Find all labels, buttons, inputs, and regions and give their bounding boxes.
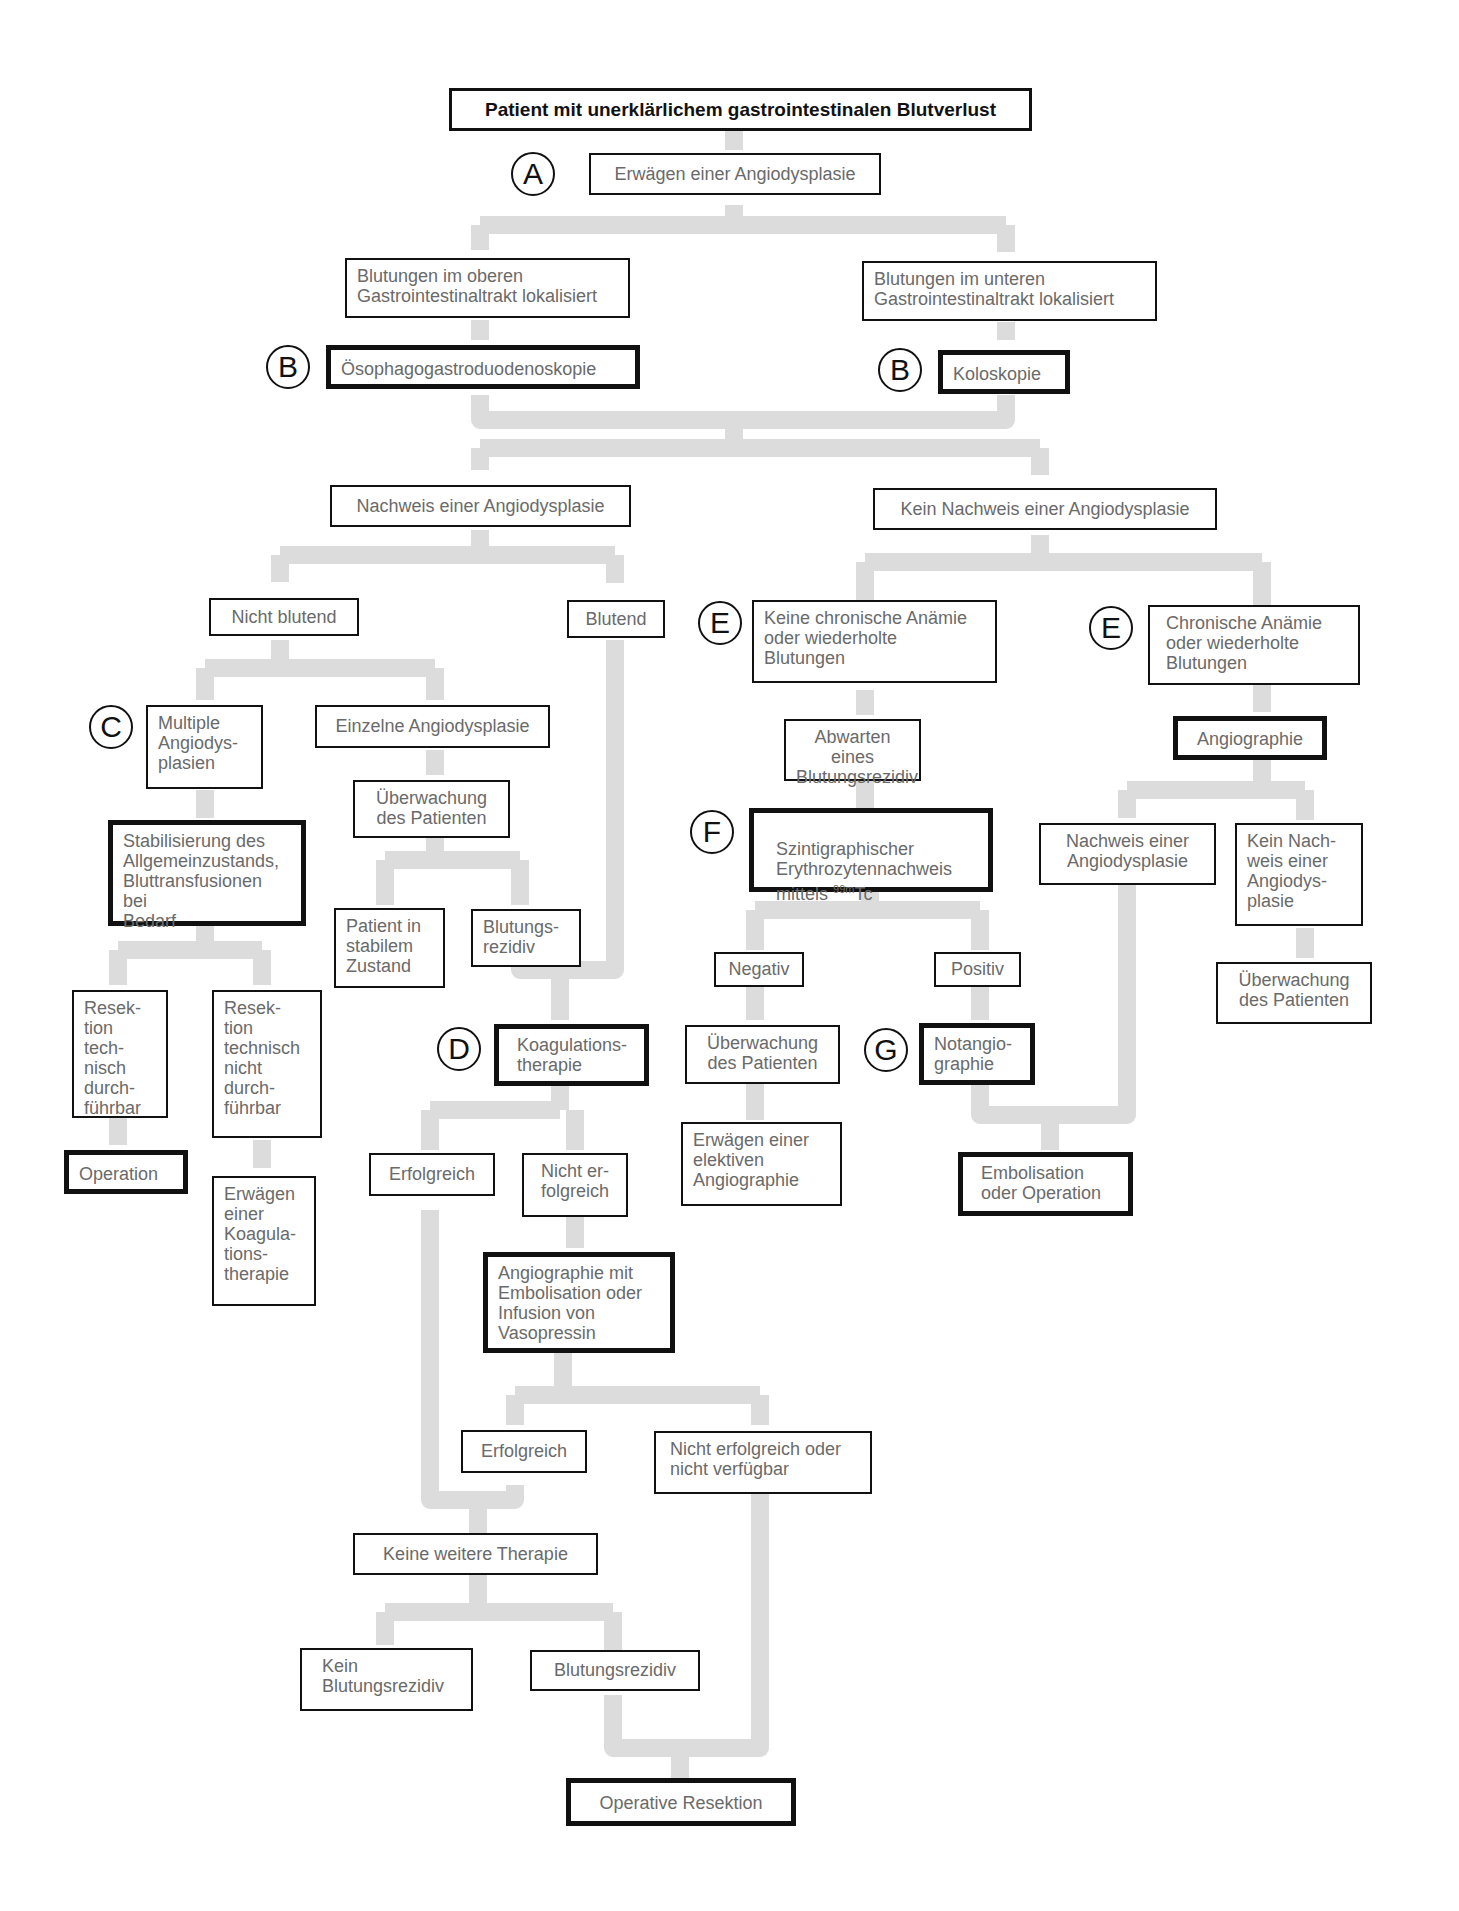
node-blutung-oben: Blutungen im oberen Gastrointestinaltrak… xyxy=(345,258,630,318)
node-nicht-blutend: Nicht blutend xyxy=(209,598,359,636)
node-negativ: Negativ xyxy=(714,952,804,987)
node-patient-stabil: Patient in stabilem Zustand xyxy=(334,908,445,988)
node-kein-nachweis: Kein Nachweis einer Angiodysplasie xyxy=(873,488,1217,530)
node-positiv: Positiv xyxy=(934,952,1021,987)
node-blutend: Blutend xyxy=(567,600,665,638)
node-notangiographie: Notangio- graphie xyxy=(919,1023,1035,1085)
node-chronische-anaemie: Chronische Anämie oder wiederholte Blutu… xyxy=(1148,605,1360,685)
node-nachweis-angiodysplasie: Nachweis einer Angiodysplasie xyxy=(330,485,631,527)
node-keine-weitere-therapie: Keine weitere Therapie xyxy=(353,1533,598,1575)
isotope-symbol: Tc xyxy=(854,884,872,904)
step-badge-e-left: E xyxy=(698,601,742,645)
node-nicht-erfolgreich-2: Nicht erfolgreich oder nicht verfügbar xyxy=(654,1431,872,1494)
node-ueberwachung-3: Überwachung des Patienten xyxy=(1216,962,1372,1024)
node-embolisation-operation: Embolisation oder Operation xyxy=(958,1152,1133,1216)
flowchart-canvas: Patient mit unerklärlichem gastrointesti… xyxy=(0,0,1459,1911)
node-ueberwachung-1: Überwachung des Patienten xyxy=(353,780,510,838)
node-blutungsrezidiv-1: Blutungs- rezidiv xyxy=(471,909,581,967)
step-badge-e-right: E xyxy=(1089,606,1133,650)
node-blutungsrezidiv-2: Blutungsrezidiv xyxy=(530,1650,700,1691)
node-nachweis-angiodysplasie-2: Nachweis einer Angiodysplasie xyxy=(1039,823,1216,885)
node-erfolgreich-1: Erfolgreich xyxy=(369,1153,495,1196)
step-badge-c: C xyxy=(89,705,133,749)
node-blutung-unten: Blutungen im unteren Gastrointestinaltra… xyxy=(862,261,1157,321)
node-nicht-erfolgreich-1: Nicht er- folgreich xyxy=(522,1153,628,1217)
node-abwarten-rezidiv: Abwarten eines Blutungsrezidiv xyxy=(784,719,921,781)
node-kein-blutungsrezidiv: Kein Blutungsrezidiv xyxy=(300,1648,473,1711)
node-erwaegen-angiodysplasie: Erwägen einer Angiodysplasie xyxy=(589,153,881,195)
node-angiographie: Angiographie xyxy=(1173,716,1327,760)
node-multiple-angiodysplasien: Multiple Angiodys- plasien xyxy=(146,705,263,789)
node-operation: Operation xyxy=(64,1150,188,1194)
step-badge-f: F xyxy=(690,810,734,854)
node-resektion-nicht-durchfuehrbar: Resek- tion technisch nicht durch- führb… xyxy=(212,990,322,1138)
node-resektion-durchfuehrbar: Resek- tion tech- nisch durch- führbar xyxy=(72,990,168,1118)
node-keine-chronische-anaemie: Keine chronische Anämie oder wiederholte… xyxy=(752,600,997,683)
node-angiographie-embolisation: Angiographie mit Embolisation oder Infus… xyxy=(483,1252,675,1353)
step-badge-b-upper: B xyxy=(266,345,310,389)
step-badge-d: D xyxy=(437,1027,481,1071)
node-kein-nachweis-2: Kein Nach- weis einer Angiodys- plasie xyxy=(1235,823,1363,926)
start-node: Patient mit unerklärlichem gastrointesti… xyxy=(449,88,1032,131)
node-einzelne-angiodysplasie: Einzelne Angiodysplasie xyxy=(315,705,550,748)
isotope-superscript: 99m xyxy=(833,883,854,895)
node-operative-resektion: Operative Resektion xyxy=(566,1778,796,1826)
step-badge-g: G xyxy=(864,1028,908,1072)
step-badge-a: A xyxy=(511,152,555,196)
node-stabilisierung: Stabilisierung des Allgemeinzustands, Bl… xyxy=(108,820,306,926)
node-koloskopie: Koloskopie xyxy=(938,350,1070,394)
node-elektive-angiographie: Erwägen einer elektiven Angiographie xyxy=(681,1122,842,1206)
node-szintigraphie: Szintigraphischer Erythrozytennachweis m… xyxy=(749,808,993,892)
node-erwaegen-koagulation: Erwägen einer Koagula- tions- therapie xyxy=(212,1176,316,1306)
step-badge-b-lower: B xyxy=(878,348,922,392)
node-koagulationstherapie: Koagulations- therapie xyxy=(494,1024,649,1086)
node-erfolgreich-2: Erfolgreich xyxy=(461,1430,587,1473)
node-oegd: Ösophagogastroduodenoskopie xyxy=(326,345,640,389)
node-ueberwachung-2: Überwachung des Patienten xyxy=(685,1025,840,1084)
